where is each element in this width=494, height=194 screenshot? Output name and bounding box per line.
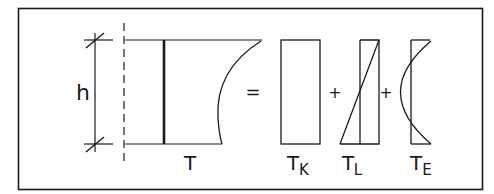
main-label: T bbox=[183, 151, 197, 175]
dimension-h: h bbox=[76, 33, 113, 152]
component-tl: T L bbox=[340, 40, 379, 179]
component-tk: T K bbox=[281, 40, 320, 179]
component-tl-subscript: L bbox=[354, 161, 363, 179]
dimension-label: h bbox=[76, 80, 90, 105]
component-te-base: T bbox=[409, 151, 423, 175]
component-tk-base: T bbox=[286, 151, 300, 175]
component-te: T E bbox=[401, 40, 432, 179]
diagram-canvas: h T = T K + T L + bbox=[0, 0, 494, 194]
component-te-subscript: E bbox=[422, 161, 431, 179]
plus-sign-1: + bbox=[328, 83, 341, 102]
component-tk-subscript: K bbox=[299, 161, 310, 179]
temperature-decomposition-diagram: h T = T K + T L + bbox=[0, 0, 494, 194]
total-temperature-profile: T bbox=[125, 40, 262, 175]
component-tl-base: T bbox=[341, 151, 355, 175]
plus-sign-2: + bbox=[379, 83, 392, 102]
equals-sign: = bbox=[245, 81, 260, 102]
